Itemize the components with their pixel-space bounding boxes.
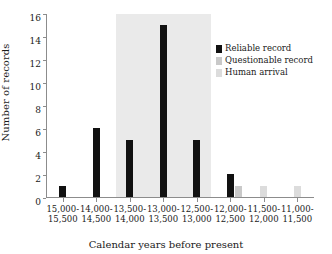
x-axis-tick-mark [130, 198, 131, 202]
y-axis-tick-mark [43, 198, 46, 199]
x-axis-line [46, 197, 314, 198]
x-axis-tick-label-line: 13,500- [113, 204, 146, 214]
legend-item-label: Human arrival [225, 68, 288, 77]
x-axis-title: Calendar years before present [0, 239, 332, 250]
x-axis-tick-label-line: 15,500 [46, 214, 79, 224]
legend-item: Questionable record [216, 55, 313, 66]
x-axis-tick-mark [96, 198, 97, 202]
x-axis-tick-label: 13,000-13,500 [147, 204, 180, 224]
x-axis-tick-label-line: 11,000- [281, 204, 314, 214]
x-axis-tick-label-line: 14,000- [80, 204, 113, 214]
x-axis-tick-mark [63, 198, 64, 202]
legend-swatch-icon [216, 57, 222, 65]
legend: Reliable recordQuestionable recordHuman … [216, 43, 313, 79]
x-axis-tick-label: 13,500-14,000 [113, 204, 146, 224]
x-axis-tick-mark [297, 198, 298, 202]
x-axis-tick-label-line: 14,000 [113, 214, 146, 224]
x-axis-tick-label-line: 12,500 [214, 214, 247, 224]
x-axis-tick-label-line: 14,500 [80, 214, 113, 224]
legend-swatch-icon [216, 45, 222, 53]
legend-item-label: Reliable record [225, 44, 291, 53]
plot-area: 0246810121416 15,000-15,50014,000-14,500… [46, 14, 314, 198]
legend-item: Human arrival [216, 67, 313, 78]
x-axis-tick-label-line: 15,000- [46, 204, 79, 214]
bar [193, 140, 200, 198]
y-axis-line [46, 14, 47, 198]
legend-swatch-icon [216, 69, 222, 77]
bar [126, 140, 133, 198]
x-axis-tick-label: 11,500-12,000 [247, 204, 280, 224]
bar [93, 128, 100, 197]
x-axis-tick-label-line: 13,000- [147, 204, 180, 214]
x-axis-tick-label-line: 12,000 [247, 214, 280, 224]
y-axis-title: Number of records [0, 0, 12, 184]
x-axis-tick-label-line: 11,500- [247, 204, 280, 214]
bar [59, 186, 66, 198]
bar [160, 25, 167, 198]
x-axis-tick-label-line: 13,000 [180, 214, 213, 224]
x-axis-tick-label: 14,000-14,500 [80, 204, 113, 224]
x-axis-tick-mark [163, 198, 164, 202]
bar [294, 186, 301, 198]
legend-item-label: Questionable record [225, 56, 313, 65]
x-axis-tick-label-line: 12,000- [214, 204, 247, 214]
x-axis-tick-mark [264, 198, 265, 202]
x-axis-tick-label: 11,000-11,500 [281, 204, 314, 224]
x-axis-tick-label: 12,000-12,500 [214, 204, 247, 224]
bar [235, 186, 242, 198]
x-axis-tick-mark [197, 198, 198, 202]
x-axis-tick-label-line: 13,500 [147, 214, 180, 224]
bar [260, 186, 267, 198]
x-axis-tick-mark [230, 198, 231, 202]
x-axis-title-text: Calendar years before present [89, 239, 244, 250]
y-axis-title-text: Number of records [0, 43, 11, 141]
x-axis-tick-label-line: 12,500- [180, 204, 213, 214]
chart-figure: Number of records 0246810121416 15,000-1… [0, 0, 332, 254]
x-axis-tick-label: 15,000-15,500 [46, 204, 79, 224]
x-axis-tick-label-line: 11,500 [281, 214, 314, 224]
x-axis-tick-label: 12,500-13,000 [180, 204, 213, 224]
bar [227, 174, 234, 197]
legend-item: Reliable record [216, 43, 313, 54]
